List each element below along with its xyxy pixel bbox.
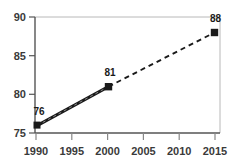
y-axis-tick-labels: 90 85 80 75 xyxy=(14,11,26,139)
data-point-marker-2000 xyxy=(105,83,112,90)
x-tick-label-1995: 1995 xyxy=(60,145,84,157)
chart-container: 90 85 80 75 1990 1995 2000 2005 2010 201… xyxy=(0,0,236,166)
plot-frame xyxy=(35,17,220,133)
x-tick-label-2000: 2000 xyxy=(95,145,119,157)
x-tick-label-1990: 1990 xyxy=(24,145,48,157)
x-axis-tick-labels: 1990 1995 2000 2005 2010 2015 xyxy=(24,145,227,157)
data-label-1990: 76 xyxy=(33,106,45,117)
series-projected-line xyxy=(109,33,215,87)
x-tick-label-2015: 2015 xyxy=(203,145,227,157)
data-label-2000: 81 xyxy=(104,67,116,78)
x-tick-label-2005: 2005 xyxy=(131,145,155,157)
data-point-marker-1990 xyxy=(34,122,41,129)
y-tick-label-85: 85 xyxy=(14,50,26,62)
x-axis-ticks xyxy=(36,133,215,140)
y-tick-label-75: 75 xyxy=(14,127,26,139)
y-tick-label-80: 80 xyxy=(14,88,26,100)
data-point-marker-2015 xyxy=(211,29,218,36)
data-label-2015: 88 xyxy=(210,13,222,24)
data-point-labels: 76 81 88 xyxy=(33,13,221,117)
x-tick-label-2010: 2010 xyxy=(167,145,191,157)
line-chart: 90 85 80 75 1990 1995 2000 2005 2010 201… xyxy=(0,0,236,166)
y-tick-label-90: 90 xyxy=(14,11,26,23)
